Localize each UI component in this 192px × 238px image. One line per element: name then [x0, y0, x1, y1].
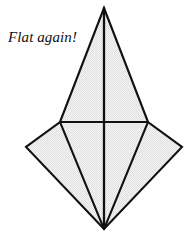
caption-label: Flat again! [8, 29, 77, 46]
origami-figure: Flat again! [0, 0, 192, 238]
